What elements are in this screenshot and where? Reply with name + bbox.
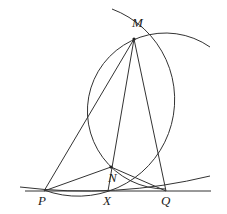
label-N: N [108,171,117,184]
label-X: X [103,194,111,207]
label-P: P [38,194,46,207]
label-Q: Q [161,194,170,207]
label-M: M [132,16,143,29]
geometry-diagram: M N P X Q [0,0,227,214]
segment-MQ [134,39,166,191]
segment-NP [44,167,111,191]
point-M [132,37,135,40]
point-N [109,165,112,168]
